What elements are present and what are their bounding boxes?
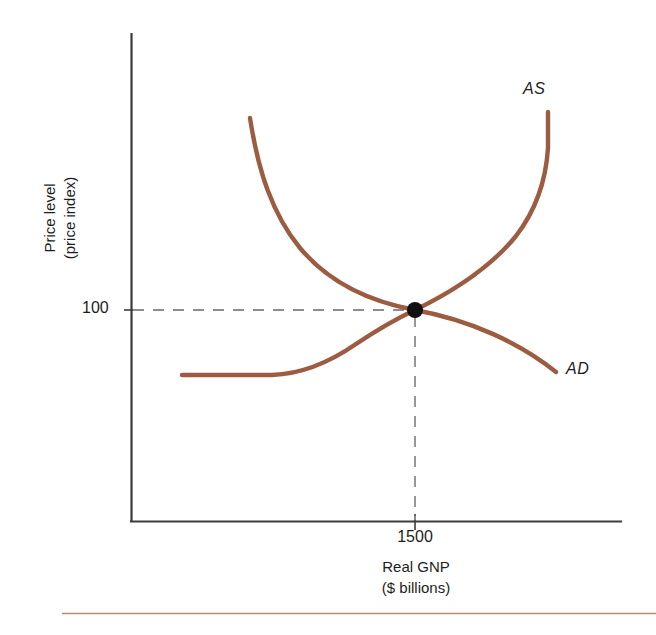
chart-canvas bbox=[0, 0, 656, 635]
y-axis-title: Price level (price index) bbox=[40, 118, 84, 318]
as-curve-label: AS bbox=[523, 80, 545, 98]
x-axis-title: Real GNP ($ billions) bbox=[276, 556, 556, 598]
ad-curve-label: AD bbox=[566, 360, 589, 378]
y-axis-title-line2: (price index) bbox=[60, 118, 80, 318]
x-axis-title-line2: ($ billions) bbox=[276, 577, 556, 598]
chart-figure: Price level (price index) 100 1500 Real … bbox=[0, 0, 656, 635]
y-axis-tick-label-100: 100 bbox=[82, 299, 109, 317]
y-axis-title-line1: Price level bbox=[40, 118, 60, 318]
x-axis-tick-label-1500: 1500 bbox=[385, 528, 445, 546]
x-axis-title-line1: Real GNP bbox=[276, 556, 556, 577]
equilibrium-point-marker bbox=[407, 302, 423, 318]
